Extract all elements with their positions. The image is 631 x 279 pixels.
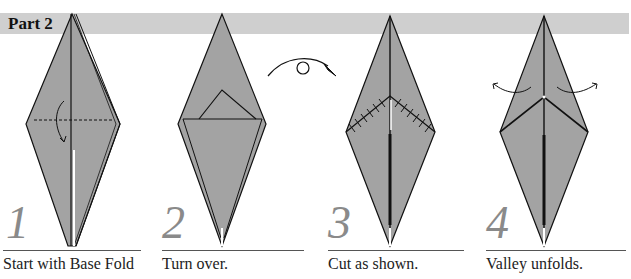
step-1-diagram: [26, 14, 120, 246]
step-3-caption: Cut as shown.: [328, 255, 418, 273]
step-3-divider: [328, 250, 464, 251]
step-1-divider: [3, 250, 141, 251]
step-2-caption: Turn over.: [162, 255, 228, 273]
step-4-divider: [486, 250, 626, 251]
step-4-number: 4: [486, 200, 509, 246]
step-4-caption: Valley unfolds.: [486, 255, 583, 273]
turn-over-icon: [297, 62, 309, 74]
step-3-number: 3: [328, 200, 351, 246]
step-2-divider: [162, 250, 304, 251]
fold-diagrams: [0, 0, 631, 279]
step-2-diagram: [178, 14, 336, 246]
step-1-number: 1: [6, 200, 29, 246]
step-3-diagram: [346, 16, 435, 246]
step-1-caption: Start with Base Fold: [3, 255, 134, 273]
step-2-number: 2: [162, 200, 185, 246]
